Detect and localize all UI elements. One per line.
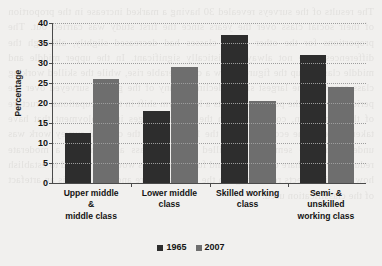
- y-axis-tickmark: [49, 163, 53, 164]
- x-axis-category-label-line: middle class: [52, 211, 130, 222]
- y-axis-tick-label: 10: [38, 139, 48, 148]
- x-axis-category-label-line: Semi- &: [287, 188, 365, 199]
- y-axis-tickmark: [49, 43, 53, 44]
- y-axis-title: Percentage: [11, 0, 26, 186]
- bar-2007-4: [328, 87, 355, 183]
- x-axis-tickmark: [131, 183, 132, 187]
- y-axis-tick-label: 35: [38, 39, 48, 48]
- gridline: [53, 123, 366, 124]
- x-axis-category-label-line: class: [209, 199, 287, 210]
- y-axis-tick-labels: 4035302520151050: [26, 23, 48, 183]
- gridline: [53, 83, 366, 84]
- x-axis-category-label-line: Lower middle: [130, 188, 208, 199]
- x-axis-tickmark: [288, 183, 289, 187]
- x-axis-category-label-line: unskilled: [287, 199, 365, 210]
- x-axis-category-labels: Upper middle&middle classLower middlecla…: [52, 188, 365, 236]
- y-axis-tick-label: 5: [43, 159, 48, 168]
- legend-swatch-icon: [157, 245, 163, 251]
- legend-swatch-icon: [196, 245, 202, 251]
- x-axis-tickmark: [210, 183, 211, 187]
- gridline: [53, 143, 366, 144]
- chart-legend: 19652007: [0, 243, 382, 252]
- gridline: [53, 103, 366, 104]
- y-axis-tickmark: [49, 103, 53, 104]
- x-axis-category-label: Semi- &unskilledworking class: [287, 188, 365, 222]
- legend-label: 2007: [205, 243, 225, 252]
- x-axis-category-label-line: class: [130, 199, 208, 210]
- y-axis-tick-label: 15: [38, 119, 48, 128]
- x-axis-category-label-line: &: [52, 199, 130, 210]
- bar-2007-2: [171, 67, 198, 183]
- y-axis-tickmark: [49, 123, 53, 124]
- bar-2007-1: [93, 79, 120, 183]
- bar-1965-2: [143, 111, 170, 183]
- x-axis-category-label: Lower middleclass: [130, 188, 208, 211]
- bar-1965-3: [221, 35, 248, 183]
- y-axis-tick-label: 20: [38, 99, 48, 108]
- x-axis-category-label-line: Skilled working: [209, 188, 287, 199]
- y-axis-tick-label: 30: [38, 59, 48, 68]
- y-axis-tickmark: [49, 143, 53, 144]
- y-axis-tick-label: 0: [43, 179, 48, 188]
- y-axis-tickmark: [49, 83, 53, 84]
- legend-item-1965[interactable]: 1965: [157, 243, 186, 252]
- x-axis-category-label-line: working class: [287, 211, 365, 222]
- gridline: [53, 163, 366, 164]
- legend-item-2007[interactable]: 2007: [196, 243, 225, 252]
- x-axis-category-label-line: Upper middle: [52, 188, 130, 199]
- x-axis-category-label: Upper middle&middle class: [52, 188, 130, 222]
- y-axis-tickmark: [49, 183, 53, 184]
- gridline: [53, 43, 366, 44]
- bar-chart: Percentage 4035302520151050 Upper middle…: [0, 0, 382, 266]
- y-axis-tickmark: [49, 63, 53, 64]
- y-axis-tickmark: [49, 23, 53, 24]
- gridline: [53, 23, 366, 24]
- y-axis-title-label: Percentage: [14, 70, 24, 117]
- bar-1965-1: [65, 133, 92, 183]
- gridline: [53, 63, 366, 64]
- x-axis-category-label: Skilled workingclass: [209, 188, 287, 211]
- y-axis-tick-label: 25: [38, 79, 48, 88]
- plot-area: [52, 23, 366, 184]
- legend-label: 1965: [166, 243, 186, 252]
- bar-2007-3: [249, 101, 276, 183]
- y-axis-tick-label: 40: [38, 19, 48, 28]
